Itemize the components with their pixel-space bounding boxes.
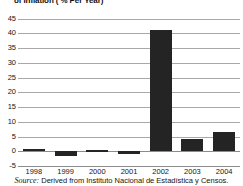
- bar-2001: [118, 151, 140, 154]
- bar-2000: [86, 150, 108, 152]
- source-note: Source: Derived from Instituto Nacional …: [0, 176, 243, 186]
- y-axis-tick-30: 30: [8, 59, 16, 67]
- gridline-35: 35: [18, 48, 240, 49]
- inflation-bar-chart: of Inflation ( % Per Year) 4540353025201…: [0, 0, 243, 186]
- gridline-45: 45: [18, 19, 240, 20]
- y-axis-tick-5: 5: [12, 133, 16, 141]
- y-axis-tick-25: 25: [8, 74, 16, 82]
- bar-2002: [150, 30, 172, 151]
- source-text: Derived from Instituto Nacional de Estad…: [41, 176, 228, 185]
- y-axis-tick-15: 15: [8, 103, 16, 111]
- bar-1998: [23, 149, 45, 151]
- gridline-10: 10: [18, 122, 240, 123]
- bar-1999: [55, 151, 77, 155]
- chart-title: of Inflation ( % Per Year): [14, 0, 164, 5]
- bar-2004: [213, 132, 235, 151]
- y-axis-tick-20: 20: [8, 88, 16, 96]
- y-axis-tick--5: -5: [9, 162, 16, 170]
- bar-2003: [181, 139, 203, 151]
- gridline-25: 25: [18, 78, 240, 79]
- y-axis-tick-40: 40: [8, 29, 16, 37]
- gridline-30: 30: [18, 63, 240, 64]
- y-axis-tick-10: 10: [8, 118, 16, 126]
- y-axis-tick-35: 35: [8, 44, 16, 52]
- y-axis-tick-0: 0: [12, 147, 16, 155]
- gridline-5: 5: [18, 137, 240, 138]
- gridline-20: 20: [18, 92, 240, 93]
- y-axis-tick-45: 45: [8, 15, 16, 23]
- gridline-15: 15: [18, 107, 240, 108]
- gridline-40: 40: [18, 33, 240, 34]
- source-label: Source:: [15, 176, 40, 185]
- plot-area: 454035302520151050-5: [18, 8, 240, 166]
